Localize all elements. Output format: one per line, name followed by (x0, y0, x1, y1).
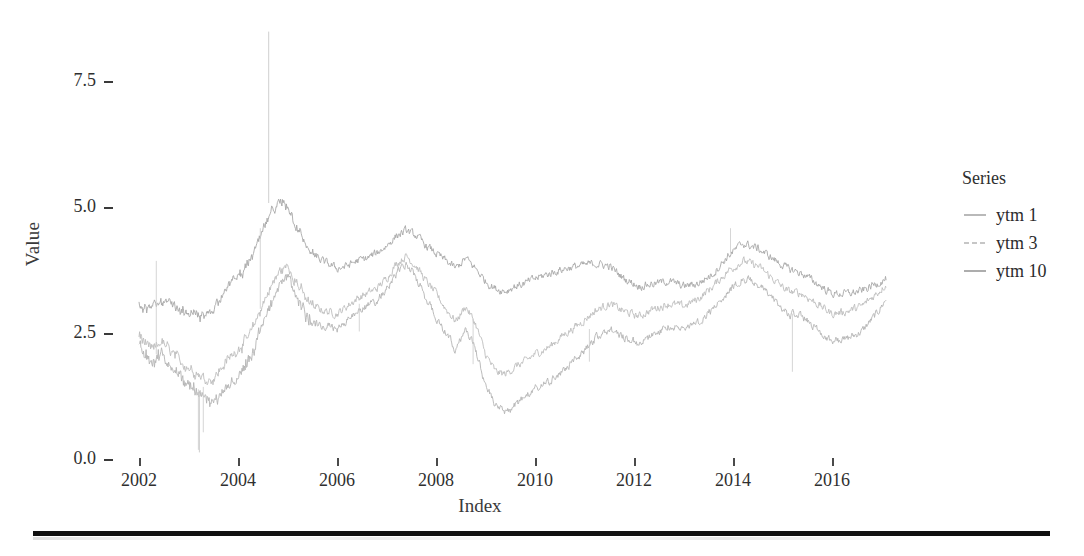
legend-item-label: ytm 10 (996, 261, 1047, 282)
plot-area (0, 0, 1084, 556)
legend: Series ytm 1 ytm 3 ytm 10 (962, 168, 1082, 285)
legend-item-ytm-10[interactable]: ytm 10 (962, 257, 1082, 285)
legend-item-ytm-1[interactable]: ytm 1 (962, 201, 1082, 229)
legend-line-swatch-icon (962, 236, 988, 250)
legend-item-ytm-3[interactable]: ytm 3 (962, 229, 1082, 257)
legend-line-swatch-icon (962, 264, 988, 278)
series-line-ytm-3 (139, 254, 886, 385)
page-rule-artifact (33, 531, 1050, 536)
page-scan-smudge (33, 537, 1050, 540)
series-line-ytm-1 (139, 262, 886, 414)
series-layer (139, 32, 886, 453)
legend-item-label: ytm 1 (996, 205, 1038, 226)
chart-figure: Value 7.5 5.0 2.5 0.0 2002 2004 2006 200… (0, 0, 1084, 556)
legend-title: Series (962, 168, 1082, 189)
legend-item-label: ytm 3 (996, 233, 1038, 254)
legend-line-swatch-icon (962, 208, 988, 222)
series-line-ytm-10 (139, 199, 886, 322)
